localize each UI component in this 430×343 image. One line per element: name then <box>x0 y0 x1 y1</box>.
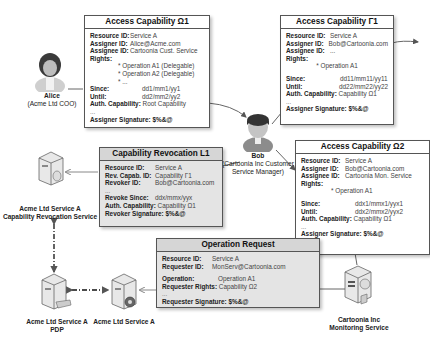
since-label: Since: <box>286 75 340 83</box>
bob-label: Bob (Cartoonia Inc Customer Service Mana… <box>222 152 294 176</box>
auth-value: Capability Ω1 <box>354 215 392 223</box>
omega2-title: Access Capability Ω2 <box>296 141 429 154</box>
auth-label: Auth. Capability: <box>286 90 337 98</box>
revocation-server-line2: Capability Revocation Service <box>3 213 97 220</box>
operation-request-title: Operation Request <box>157 239 319 252</box>
assigner-label: Assigner ID: <box>301 165 345 173</box>
revoked-capability-label: Rev. Capab. ID: <box>105 172 155 180</box>
service-a-label: Acme Ltd Service A <box>92 318 156 326</box>
requester-label: Requester ID: <box>162 263 212 271</box>
capability-revocation-l1: Capability Revocation L1 Resource ID:Ser… <box>99 147 223 227</box>
ellipsis: ... <box>162 290 314 298</box>
ellipsis: ... <box>301 223 424 231</box>
since-value: ddx1/mmx1/yyx1 <box>355 200 403 208</box>
signature-value: $%&@ <box>228 298 248 306</box>
resource-value: Service A <box>330 32 357 40</box>
signature-value: $%&@ <box>349 105 369 113</box>
resource-label: Resource ID: <box>90 32 130 40</box>
bob-name: Bob <box>252 152 265 159</box>
alice-role: (Acme Ltd COO) <box>27 100 76 107</box>
operation-label: Operation: <box>162 275 218 283</box>
revoke-since-value: ddx/mmx/yyx <box>155 194 192 202</box>
monitoring-label: Cartoonia Inc Monitoring Service <box>322 316 396 332</box>
auth-value: Capability Ω1 <box>339 90 377 98</box>
signature-value: $%&@ <box>153 116 173 124</box>
assignee-label: Assignee ID: <box>301 172 345 180</box>
signature-label: Assigner Signature: <box>90 116 151 124</box>
assignee-value: Cartoonia Cust. Service <box>130 47 198 55</box>
pdp-line2: PDP <box>50 326 64 333</box>
resource-label: Resource ID: <box>286 32 330 40</box>
auth-value: Capability Ω1 <box>158 202 196 210</box>
operation-value: Operation A1 <box>218 275 255 283</box>
resource-value: Service A <box>155 164 182 172</box>
access-capability-gamma1: Access Capability Γ1 Resource ID:Service… <box>280 15 394 125</box>
revocation-server-label: Acme Ltd Service A Capability Revocation… <box>2 205 98 221</box>
monitoring-server-icon <box>343 264 377 306</box>
revoker-value: Bob@Cartoonia.com <box>155 179 214 187</box>
resource-label: Resource ID: <box>105 164 155 172</box>
resource-value: Service A <box>212 255 239 263</box>
until-label: Until: <box>90 93 142 101</box>
ellipsis: ... <box>90 108 204 116</box>
signature-label: Assigner Signature: <box>301 230 362 238</box>
until-value: dd2/mm2/yy2 <box>142 93 180 101</box>
revoked-capability-value: Capability Γ1 <box>155 172 192 180</box>
monitoring-line2: Monitoring Service <box>329 324 388 331</box>
assigner-label: Assigner ID: <box>90 40 130 48</box>
signature-value: $%&@ <box>165 210 185 218</box>
assigner-label: Assigner ID: <box>286 40 329 48</box>
until-label: Until: <box>286 83 339 91</box>
revoke-since-label: Revoke Since: <box>105 194 155 202</box>
resource-label: Resource ID: <box>301 157 345 165</box>
rights-label: Rights: <box>301 180 323 188</box>
pdp-line1: Acme Ltd Service A <box>26 318 88 325</box>
rights-label: Rights: <box>90 55 112 63</box>
resource-value: Service A <box>345 157 372 165</box>
assignee-value: ... <box>330 47 335 55</box>
monitoring-line1: Cartoonia Inc <box>338 316 380 323</box>
assigner-value: Bob@Cartoonia.com <box>329 40 388 48</box>
revocation-title: Capability Revocation L1 <box>100 148 222 161</box>
assigner-value: Alice@Acme.com <box>130 40 181 48</box>
omega1-title: Access Capability Ω1 <box>85 16 209 29</box>
ellipsis: ... <box>286 98 388 106</box>
pdp-label: Acme Ltd Service A PDP <box>22 318 92 334</box>
right-item: * Operation A2 (Delegable) <box>90 70 204 78</box>
gamma1-title: Access Capability Γ1 <box>281 16 393 29</box>
signature-value: $%&@ <box>364 230 384 238</box>
right-item: * ... <box>90 78 204 86</box>
assignee-label: Assignee ID: <box>286 47 330 55</box>
revocation-server-icon <box>37 150 65 186</box>
since-label: Since: <box>301 200 355 208</box>
bob-avatar-icon <box>241 112 275 152</box>
alice-label: Alice (Acme Ltd COO) <box>24 92 80 108</box>
revoker-label: Revoker ID: <box>105 179 155 187</box>
until-value: dd22/mm22/yy22 <box>339 83 388 91</box>
auth-label: Auth. Capability: <box>105 202 156 210</box>
assigner-value: Bob@Cartoonia.com <box>345 165 404 173</box>
signature-label: Assigner Signature: <box>286 105 347 113</box>
since-value: dd11/mm11/yy11 <box>340 75 388 83</box>
bob-role-line1: (Cartoonia Inc Customer <box>222 160 294 167</box>
until-label: Until: <box>301 208 355 216</box>
revocation-server-line1: Acme Ltd Service A <box>19 205 81 212</box>
pdp-server-icon <box>40 272 72 312</box>
until-value: ddx2/mmx2/yyx2 <box>355 208 403 216</box>
auth-label: Auth. Capability: <box>90 100 141 108</box>
resource-value: Service A <box>130 32 157 40</box>
bob-role-line2: Service Manager) <box>232 168 284 175</box>
auth-value: Root Capability <box>143 100 186 108</box>
since-label: Since: <box>90 85 142 93</box>
rights-label: Rights: <box>286 55 308 63</box>
requester-rights-label: Requester Rights: <box>162 283 217 291</box>
gamma1-to-assignee-arrow <box>392 41 418 43</box>
alice-name: Alice <box>44 92 60 99</box>
since-value: dd1/mm1/yy1 <box>142 85 180 93</box>
right-item: * Operation A1 <box>301 187 424 195</box>
requester-rights-value: Capability Ω2 <box>219 283 257 291</box>
right-item: * Operation A1 (Delegable) <box>90 62 204 70</box>
alice-avatar-icon <box>33 52 67 92</box>
signature-label: Requester Signature: <box>162 298 227 306</box>
ellipsis: ... <box>105 187 217 195</box>
